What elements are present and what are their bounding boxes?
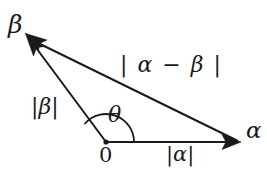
label-magnitude-beta: |β|	[31, 96, 59, 118]
label-origin: 0	[99, 145, 112, 166]
label-angle-theta: θ	[108, 104, 121, 126]
alpha-minus-beta-vector	[26, 34, 238, 141]
label-vector-beta: β	[8, 12, 22, 37]
vector-diagram-figure: β α | α − β | |β| θ 0 |α|	[0, 0, 267, 171]
label-vector-alpha: α	[246, 119, 262, 142]
label-magnitude-alpha: |α|	[166, 144, 194, 165]
vector-diagram-canvas	[0, 0, 267, 171]
label-difference-magnitude: | α − β |	[120, 54, 222, 76]
